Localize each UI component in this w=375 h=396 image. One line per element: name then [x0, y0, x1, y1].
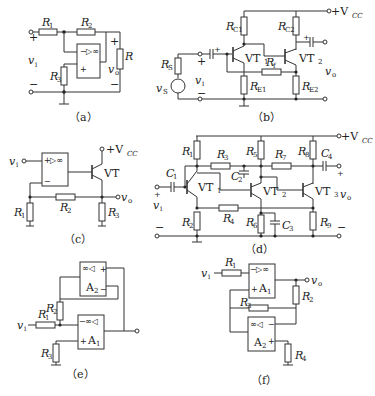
resistor-r5	[258, 141, 264, 159]
svg-text:VT: VT	[197, 181, 214, 194]
svg-text:v: v	[201, 267, 208, 280]
svg-text:2: 2	[189, 222, 193, 230]
svg-text:+: +	[80, 65, 87, 74]
svg-text:+: +	[268, 337, 275, 346]
svg-text:i: i	[35, 61, 38, 69]
svg-text:+: +	[80, 337, 87, 346]
svg-text:2: 2	[262, 342, 266, 350]
svg-text:v: v	[121, 191, 128, 204]
svg-text:o: o	[318, 280, 322, 288]
svg-text:1: 1	[173, 173, 177, 181]
svg-text:VT: VT	[262, 185, 279, 198]
svg-text:+: +	[154, 190, 161, 199]
resistor-rs	[175, 58, 181, 74]
resistor-r4	[285, 344, 291, 362]
svg-text:3: 3	[115, 212, 119, 220]
svg-text:+: +	[100, 265, 107, 274]
svg-text:o: o	[115, 69, 119, 77]
resistor-r3	[61, 67, 67, 85]
svg-text:+: +	[337, 169, 344, 178]
svg-text:+: +	[251, 285, 258, 294]
svg-text:3: 3	[247, 302, 251, 310]
svg-text:9: 9	[327, 222, 331, 230]
resistor-r3	[211, 163, 230, 169]
svg-text:1: 1	[21, 212, 25, 220]
svg-text:o: o	[347, 194, 351, 202]
svg-text:−: −	[197, 87, 206, 100]
svg-text:VT: VT	[244, 52, 261, 65]
panel-c: + ▷∞ − vi +VCC VT vo R1 R2	[9, 143, 138, 246]
svg-text:i: i	[160, 205, 163, 213]
resistor-r2	[293, 286, 299, 304]
svg-text:2: 2	[309, 296, 313, 304]
caption-b: （b）	[252, 111, 281, 124]
panel-f: − ▷∞ + A1 ∞◁ − + A2 vi R1 vo R2	[201, 256, 322, 387]
resistor-r7	[272, 163, 291, 169]
svg-text:3: 3	[334, 191, 338, 199]
resistor-r1	[27, 203, 33, 221]
svg-text:o: o	[128, 197, 132, 205]
svg-text:i: i	[16, 161, 19, 169]
circuit-figure: − ▷∞ + R1 R2 R3 R + − vi + vo − （a）	[0, 0, 375, 396]
svg-text:2: 2	[238, 176, 242, 184]
svg-text:E2: E2	[309, 86, 319, 94]
panel-b: RC1 RC2 +VCC VT1 VT2 Rf RE1 RE2 RS vS vi…	[156, 5, 363, 124]
panel-e: ∞◁ + − A2 − ∞◁ + A1 vi	[17, 262, 139, 381]
svg-text:4: 4	[328, 153, 333, 161]
opamp-symbol-icon: ∞◁	[250, 320, 263, 329]
resistor-rf	[262, 69, 281, 75]
resistor-r6	[258, 215, 264, 233]
svg-text:S: S	[163, 88, 168, 96]
svg-text:o: o	[332, 71, 336, 79]
resistor-r3	[53, 344, 59, 362]
svg-text:2: 2	[318, 58, 322, 66]
svg-text:7: 7	[282, 154, 286, 162]
resistor-r1	[39, 29, 57, 35]
svg-text:VT: VT	[314, 185, 331, 198]
caption-f: （f）	[251, 374, 277, 387]
svg-text:v: v	[311, 274, 318, 287]
svg-text:−: −	[110, 78, 119, 91]
svg-text:+: +	[29, 31, 38, 44]
svg-text:3: 3	[57, 76, 61, 84]
svg-text:v: v	[28, 54, 35, 67]
svg-text:1: 1	[45, 314, 49, 322]
resistor-re1	[241, 76, 247, 94]
resistor-re2	[293, 76, 299, 94]
opamp-symbol-icon: ▷∞	[256, 265, 269, 274]
svg-text:E1: E1	[257, 86, 267, 94]
opamp-symbol-icon: ∞◁	[82, 264, 95, 273]
caption-c: （c）	[64, 233, 92, 246]
caption-d: （d）	[245, 243, 274, 256]
svg-text:+: +	[110, 35, 119, 48]
svg-text:1: 1	[217, 187, 221, 195]
resistor-r4	[219, 205, 238, 211]
svg-text:VT: VT	[298, 52, 315, 65]
opamp-symbol-icon: ▷∞	[50, 156, 63, 165]
svg-text:S: S	[168, 64, 173, 72]
panel-a: − ▷∞ + R1 R2 R3 R + − vi + vo − （a）	[28, 16, 133, 124]
svg-text:6: 6	[253, 222, 258, 230]
svg-text:VT: VT	[103, 167, 120, 180]
svg-text:−: −	[337, 221, 346, 234]
resistor-r3	[249, 305, 268, 311]
svg-text:−: −	[44, 177, 51, 186]
resistor-r2	[56, 194, 75, 200]
svg-text:3: 3	[48, 353, 52, 361]
resistor-r1	[222, 270, 241, 276]
svg-text:CC: CC	[362, 137, 373, 145]
svg-text:4: 4	[302, 355, 307, 363]
svg-text:3: 3	[224, 154, 228, 162]
resistor-r3	[99, 203, 105, 221]
svg-text:C2: C2	[285, 26, 295, 34]
resistor-rl	[117, 49, 123, 69]
svg-text:−: −	[100, 285, 107, 294]
caption-a: （a）	[69, 111, 98, 124]
voltage-source-icon	[171, 79, 185, 93]
svg-text:+: +	[303, 33, 310, 42]
svg-text:4: 4	[230, 218, 235, 226]
opamp-symbol-icon: ▷∞	[86, 47, 99, 56]
svg-text:1: 1	[267, 288, 271, 296]
svg-text:+V: +V	[341, 130, 359, 143]
svg-text:v: v	[325, 65, 332, 78]
